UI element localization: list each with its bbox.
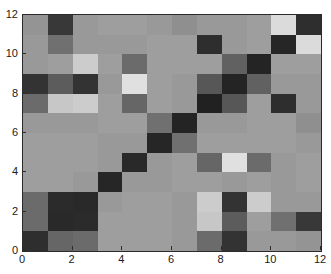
x-tick-mark bbox=[320, 246, 321, 250]
heatmap-cell bbox=[147, 74, 172, 94]
heatmap-cell bbox=[73, 35, 98, 55]
heatmap-cell bbox=[23, 113, 48, 133]
heatmap-cell bbox=[197, 74, 222, 94]
heatmap-cell bbox=[48, 133, 73, 153]
x-tick-label: 4 bbox=[118, 253, 124, 266]
heatmap-cell bbox=[147, 153, 172, 173]
heatmap-figure: 024681012 024681012 bbox=[0, 0, 331, 274]
heatmap-cell bbox=[222, 212, 247, 232]
heatmap-cell bbox=[48, 172, 73, 192]
x-tick-mark bbox=[121, 246, 122, 250]
heatmap-cell bbox=[147, 192, 172, 212]
heatmap-cell bbox=[147, 35, 172, 55]
heatmap-cell bbox=[73, 54, 98, 74]
heatmap-cell bbox=[98, 231, 123, 251]
heatmap-cell bbox=[296, 15, 321, 35]
heatmap-cell bbox=[48, 54, 73, 74]
plot-area bbox=[22, 14, 322, 252]
heatmap-cell bbox=[197, 94, 222, 114]
heatmap-cell bbox=[73, 172, 98, 192]
heatmap-cell bbox=[98, 74, 123, 94]
heatmap-cell bbox=[147, 54, 172, 74]
heatmap-cell bbox=[147, 94, 172, 114]
x-tick-label: 6 bbox=[168, 253, 174, 266]
heatmap-cell bbox=[73, 212, 98, 232]
heatmap-cell bbox=[271, 74, 296, 94]
heatmap-cell bbox=[271, 54, 296, 74]
heatmap-cell bbox=[122, 212, 147, 232]
y-tick-label: 10 bbox=[0, 47, 18, 60]
heatmap-cell bbox=[98, 192, 123, 212]
heatmap-cell bbox=[296, 231, 321, 251]
heatmap-cell bbox=[247, 133, 272, 153]
heatmap-cell bbox=[98, 15, 123, 35]
y-tick-label: 2 bbox=[0, 204, 18, 217]
heatmap-cell bbox=[247, 15, 272, 35]
y-tick-label: 4 bbox=[0, 165, 18, 178]
heatmap-cell bbox=[23, 35, 48, 55]
heatmap-cell bbox=[23, 231, 48, 251]
heatmap-cell bbox=[296, 113, 321, 133]
heatmap-cell bbox=[48, 35, 73, 55]
heatmap-cell bbox=[23, 172, 48, 192]
y-tick-mark bbox=[22, 250, 26, 251]
heatmap-cell bbox=[172, 113, 197, 133]
heatmap-cell bbox=[197, 15, 222, 35]
heatmap-cell bbox=[98, 54, 123, 74]
heatmap-cell bbox=[197, 192, 222, 212]
heatmap-cell bbox=[271, 153, 296, 173]
heatmap-cell bbox=[98, 94, 123, 114]
heatmap-cell bbox=[73, 94, 98, 114]
x-tick-label: 8 bbox=[218, 253, 224, 266]
heatmap-cell bbox=[122, 113, 147, 133]
heatmap-cell bbox=[73, 133, 98, 153]
y-tick-label: 0 bbox=[0, 244, 18, 257]
heatmap-cell bbox=[23, 133, 48, 153]
heatmap-cell bbox=[271, 35, 296, 55]
heatmap-cell bbox=[48, 94, 73, 114]
heatmap-cell bbox=[23, 74, 48, 94]
y-tick-label: 12 bbox=[0, 8, 18, 21]
heatmap-cell bbox=[271, 15, 296, 35]
x-tick-label: 2 bbox=[69, 253, 75, 266]
x-tick-mark bbox=[221, 246, 222, 250]
heatmap-cell bbox=[48, 15, 73, 35]
heatmap-cell bbox=[147, 133, 172, 153]
heatmap-cell bbox=[122, 15, 147, 35]
heatmap-cell bbox=[271, 172, 296, 192]
y-tick-mark bbox=[22, 53, 26, 54]
y-tick-mark bbox=[22, 93, 26, 94]
heatmap-cell bbox=[147, 172, 172, 192]
heatmap-cell bbox=[247, 192, 272, 212]
heatmap-cell bbox=[23, 54, 48, 74]
heatmap-cell bbox=[172, 15, 197, 35]
heatmap-cell bbox=[296, 153, 321, 173]
heatmap-cell bbox=[172, 192, 197, 212]
heatmap-cell bbox=[247, 54, 272, 74]
heatmap-cell bbox=[23, 192, 48, 212]
heatmap-cell bbox=[147, 15, 172, 35]
heatmap-cell bbox=[122, 133, 147, 153]
heatmap-cell bbox=[122, 74, 147, 94]
heatmap-cell bbox=[172, 35, 197, 55]
heatmap-cell bbox=[197, 212, 222, 232]
x-tick-mark bbox=[72, 246, 73, 250]
heatmap-cell bbox=[73, 231, 98, 251]
heatmap-cell bbox=[122, 172, 147, 192]
heatmap-cell bbox=[271, 192, 296, 212]
heatmap-cell bbox=[247, 35, 272, 55]
x-tick-label: 10 bbox=[264, 253, 276, 266]
heatmap-cell bbox=[48, 74, 73, 94]
heatmap-cell bbox=[147, 231, 172, 251]
heatmap-cell bbox=[222, 153, 247, 173]
heatmap-cell bbox=[172, 231, 197, 251]
heatmap-cell bbox=[247, 94, 272, 114]
heatmap-cell bbox=[73, 192, 98, 212]
heatmap-cell bbox=[172, 54, 197, 74]
heatmap-cell bbox=[296, 54, 321, 74]
heatmap-cell bbox=[222, 54, 247, 74]
heatmap-cell bbox=[296, 74, 321, 94]
y-tick-label: 6 bbox=[0, 126, 18, 139]
heatmap-cell bbox=[222, 74, 247, 94]
heatmap-cell bbox=[222, 133, 247, 153]
